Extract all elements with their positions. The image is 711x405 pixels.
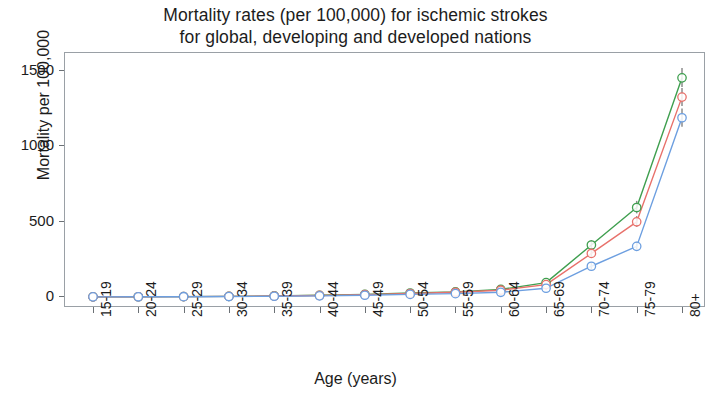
data-point-developed: [451, 289, 459, 297]
x-tick-label: 40-44: [325, 281, 341, 317]
x-tick-label: 75-79: [642, 281, 658, 317]
x-tick-label: 15-19: [98, 281, 114, 317]
y-tick-mark: [59, 145, 64, 146]
x-tick-label: 80+: [687, 293, 703, 317]
data-point-developed: [89, 293, 97, 301]
x-tick-mark: [455, 307, 456, 313]
chart-title: Mortality rates (per 100,000) for ischem…: [0, 4, 711, 48]
data-point-global: [678, 93, 686, 101]
plot-area: [64, 52, 705, 307]
x-tick-label: 30-34: [234, 281, 250, 317]
data-point-developing: [587, 241, 595, 249]
y-axis-label: Mortality per 100,000: [35, 0, 53, 220]
x-tick-mark: [637, 307, 638, 313]
x-tick-label: 55-59: [460, 281, 476, 317]
data-point-developed: [134, 293, 142, 301]
x-tick-mark: [682, 307, 683, 313]
data-point-developing: [678, 74, 686, 82]
data-point-developed: [225, 292, 233, 300]
x-tick-mark: [229, 307, 230, 313]
x-tick-label: 20-24: [143, 281, 159, 317]
y-tick-label: 0: [2, 287, 54, 304]
x-tick-mark: [93, 307, 94, 313]
data-point-developed: [542, 284, 550, 292]
data-point-developed: [315, 292, 323, 300]
chart-figure: Mortality rates (per 100,000) for ischem…: [0, 0, 711, 405]
x-tick-label: 65-69: [551, 281, 567, 317]
x-tick-mark: [501, 307, 502, 313]
data-point-developed: [497, 288, 505, 296]
data-point-developed: [587, 262, 595, 270]
data-point-developed: [406, 290, 414, 298]
x-tick-mark: [320, 307, 321, 313]
x-tick-mark: [184, 307, 185, 313]
x-tick-label: 70-74: [596, 281, 612, 317]
data-point-developed: [678, 114, 686, 122]
x-tick-label: 45-49: [370, 281, 386, 317]
data-point-developing: [632, 203, 640, 211]
x-tick-mark: [546, 307, 547, 313]
data-point-global: [632, 218, 640, 226]
x-tick-label: 50-54: [415, 281, 431, 317]
x-tick-label: 25-29: [189, 281, 205, 317]
x-tick-mark: [138, 307, 139, 313]
data-point-developed: [179, 292, 187, 300]
data-point-developed: [632, 242, 640, 250]
x-tick-mark: [591, 307, 592, 313]
x-axis-label: Age (years): [0, 370, 711, 388]
x-tick-mark: [365, 307, 366, 313]
y-tick-mark: [59, 296, 64, 297]
chart-svg: [65, 53, 704, 306]
plot-canvas: [65, 53, 704, 306]
data-point-developed: [270, 292, 278, 300]
x-tick-label: 35-39: [279, 281, 295, 317]
data-point-developed: [361, 291, 369, 299]
data-point-global: [587, 249, 595, 257]
y-tick-mark: [59, 221, 64, 222]
x-tick-mark: [410, 307, 411, 313]
x-tick-mark: [274, 307, 275, 313]
x-axis: 15-1920-2425-2930-3435-3940-4445-4950-54…: [64, 307, 705, 405]
y-tick-mark: [59, 70, 64, 71]
x-tick-label: 60-64: [506, 281, 522, 317]
